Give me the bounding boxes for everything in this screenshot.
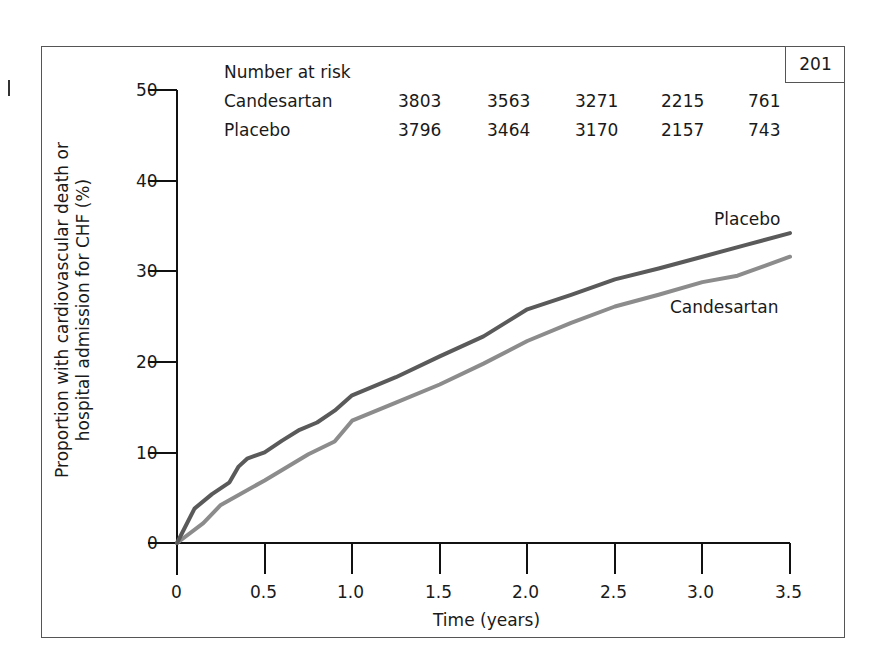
x-axis <box>177 543 790 574</box>
y-axis <box>148 90 177 575</box>
placebo-curve <box>177 233 790 543</box>
chart-plot-area <box>0 0 874 672</box>
candesartan-curve <box>177 257 790 543</box>
